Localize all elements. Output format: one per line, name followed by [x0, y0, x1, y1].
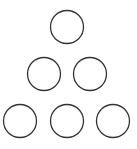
circle-row3-5: [97, 105, 130, 138]
circle-row2-2: [74, 58, 107, 91]
circle-row3-4: [51, 105, 84, 138]
circle-row3-3: [4, 105, 37, 138]
circle-triangle-diagram: [0, 0, 137, 149]
circle-row2-1: [28, 58, 61, 91]
circle-row1-0: [51, 11, 84, 44]
